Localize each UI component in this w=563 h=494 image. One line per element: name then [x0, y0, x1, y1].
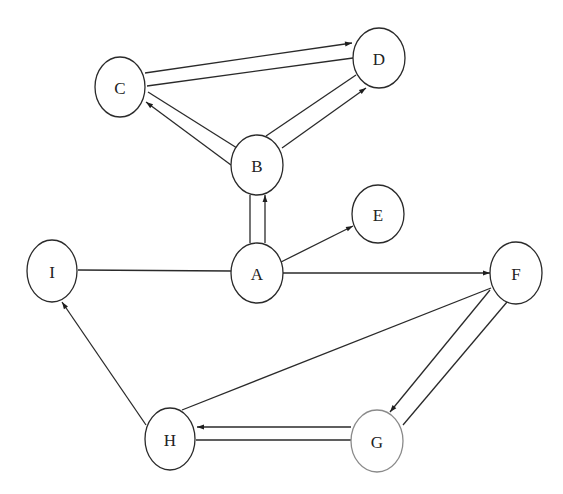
node-label: F [511, 265, 520, 284]
edge-b-c-arrow [146, 102, 231, 165]
node-label: B [251, 157, 262, 176]
node-label: G [371, 433, 383, 452]
node-h: H [145, 408, 195, 470]
node-label: E [373, 206, 383, 225]
node-label: A [251, 265, 264, 284]
node-i: I [27, 240, 77, 302]
graph-diagram: ABCDEFGHI [0, 0, 563, 494]
edge-h-i-arrow [62, 302, 146, 425]
edge-f-h-line [182, 288, 491, 410]
node-a: A [231, 243, 283, 303]
node-label: H [164, 431, 176, 450]
node-c: C [95, 57, 145, 117]
node-b: B [231, 135, 283, 195]
edge-d-c-line [147, 58, 353, 86]
edge-i-a-line [78, 270, 231, 271]
edge-c-d-arrow [145, 43, 352, 73]
node-label: C [114, 79, 125, 98]
node-label: I [49, 263, 55, 282]
node-f: F [490, 242, 542, 304]
nodes-layer: ABCDEFGHI [27, 28, 542, 472]
node-d: D [353, 28, 405, 88]
edge-b-c-line [148, 92, 237, 148]
node-g: G [351, 410, 403, 472]
edge-g-f-line [403, 302, 507, 425]
edge-a-e-arrow [281, 226, 353, 262]
node-label: D [373, 50, 385, 69]
node-e: E [352, 185, 404, 243]
